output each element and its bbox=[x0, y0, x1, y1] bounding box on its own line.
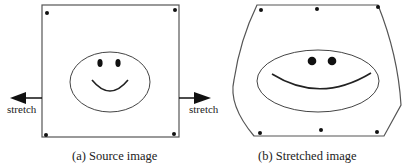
stretched-smiley-face bbox=[257, 50, 379, 112]
control-point bbox=[376, 5, 380, 9]
control-point bbox=[172, 132, 176, 136]
control-point bbox=[375, 130, 379, 134]
control-point bbox=[44, 133, 48, 137]
control-point bbox=[315, 7, 319, 11]
control-point bbox=[45, 11, 49, 15]
face-outline bbox=[70, 52, 150, 112]
left-stretch-label: stretch bbox=[7, 103, 37, 115]
control-point bbox=[173, 8, 177, 12]
right-eye bbox=[115, 59, 120, 67]
stretch-diagram: stretch stretch (a) Source image (b) Str… bbox=[0, 0, 404, 167]
control-point bbox=[259, 8, 263, 12]
stretched-smile bbox=[272, 73, 371, 89]
caption-source-image: (a) Source image bbox=[72, 149, 158, 163]
stretched-right-eye bbox=[328, 57, 337, 66]
right-stretch-label: stretch bbox=[189, 103, 219, 115]
control-point bbox=[258, 131, 262, 135]
smile bbox=[92, 80, 128, 91]
source-frame bbox=[42, 5, 179, 137]
left-stretch-arrow: stretch bbox=[7, 92, 42, 115]
left-eye bbox=[97, 59, 102, 67]
control-point bbox=[319, 128, 323, 132]
stretched-face-outline bbox=[257, 50, 379, 112]
caption-stretched-image: (b) Stretched image bbox=[258, 149, 357, 163]
smiley-face bbox=[70, 52, 150, 112]
right-stretch-arrow: stretch bbox=[179, 92, 219, 115]
source-image-panel bbox=[42, 5, 179, 137]
stretched-left-eye bbox=[308, 57, 317, 66]
stretched-image-panel bbox=[233, 5, 401, 136]
